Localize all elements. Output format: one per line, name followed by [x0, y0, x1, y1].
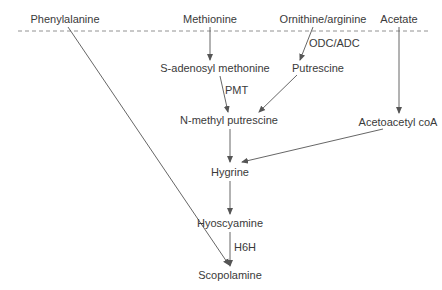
enzyme-odc-adc: ODC/ADC [309, 38, 360, 49]
enzyme-pmt: PMT [225, 85, 248, 96]
node-hyoscyamine: Hyoscyamine [197, 218, 263, 229]
arrow-edge [259, 75, 297, 112]
node-acetate: Acetate [380, 14, 417, 25]
node-methionine: Methionine [183, 14, 237, 25]
node-scopolamine: Scopolamine [198, 270, 262, 281]
pathway-edges [0, 0, 442, 290]
arrow-edge [242, 129, 383, 162]
node-n-methyl-putrescine: N-methyl putrescine [180, 115, 278, 126]
node-hygrine: Hygrine [211, 167, 249, 178]
pathway-diagram: Phenylalanine Methionine Ornithine/argin… [0, 0, 442, 290]
node-acetoacetyl-coa: Acetoacetyl coA [359, 117, 438, 128]
node-putrescine: Putrescine [292, 63, 344, 74]
enzyme-h6h: H6H [234, 242, 256, 253]
node-s-adenosyl-methonine: S-adenosyl methonine [160, 63, 269, 74]
node-phenylalanine: Phenylalanine [30, 14, 99, 25]
node-ornithine-arginine: Ornithine/arginine [280, 14, 367, 25]
